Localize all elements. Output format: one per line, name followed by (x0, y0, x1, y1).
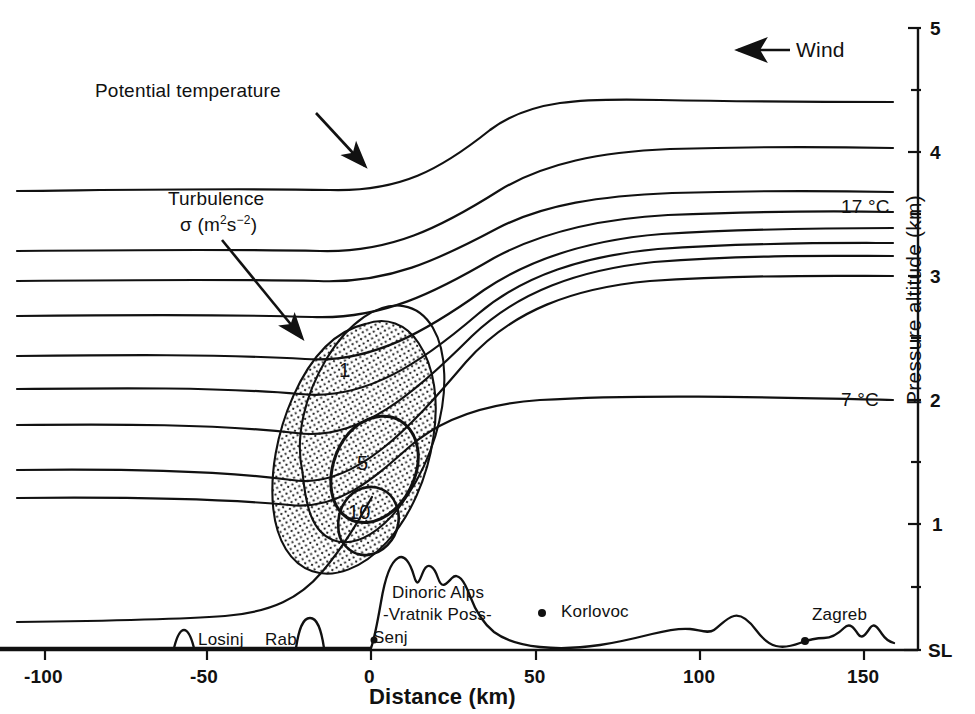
turbulence-arrow (222, 240, 302, 338)
temperature-label-lower: 7 °C (841, 389, 879, 411)
zagreb-marker (801, 637, 809, 645)
y-tick-label-2: 2 (930, 390, 941, 412)
isentrope-8 (17, 276, 893, 481)
place-label-dinaric-alps: Dinoric Alps (392, 583, 484, 603)
place-label-karlovac: Korlovoc (561, 602, 629, 622)
sigma-units-exp2: −2 (237, 213, 251, 227)
chart-figure: Potential temperature Turbulence σ (m2s−… (0, 0, 975, 714)
place-label-vratnik-pass: -Vratnik Poss- (383, 605, 492, 625)
x-tick-label-0: -100 (24, 666, 63, 688)
turbulence-annotation: Turbulence (168, 188, 264, 210)
isentrope-6 (17, 243, 893, 395)
turbulence-units-annotation: σ (m2s−2) (180, 213, 257, 236)
isentrope-9-7C (17, 397, 893, 506)
isentrope-lines (17, 99, 893, 622)
potential-temperature-annotation: Potential temperature (95, 80, 281, 102)
place-label-rab: Rab (265, 630, 297, 650)
sigma-units-prefix: σ (m (180, 214, 220, 235)
isentrope-1 (17, 99, 893, 191)
place-label-losinj: Losinj (198, 630, 244, 650)
x-tick-label-3: 50 (524, 666, 546, 688)
axis-lines (0, 28, 918, 650)
potential-temperature-arrow (316, 113, 365, 166)
wind-label: Wind (796, 38, 845, 62)
y-axis-title: Pressure altitude (km) (902, 195, 926, 405)
temperature-label-upper: 17 °C (841, 196, 890, 218)
y-tick-label-4: 4 (930, 142, 941, 164)
x-tick-label-4: 100 (683, 666, 715, 688)
sigma-units-mid: s (227, 214, 237, 235)
x-tick-label-5: 150 (847, 666, 879, 688)
isentrope-5 (17, 228, 893, 359)
turbulence-contour-label-1: 1 (339, 359, 350, 382)
sigma-units-suffix: ) (251, 214, 258, 235)
sigma-units-exp1: 2 (220, 213, 227, 227)
isentrope-7 (17, 256, 893, 434)
y-tick-label-3: 3 (930, 266, 941, 288)
turbulence-shaded-region (250, 303, 459, 593)
place-label-senj: Senj (373, 628, 408, 648)
y-tick-label-sl: SL (928, 640, 953, 662)
turbulence-contour-label-5: 5 (357, 452, 368, 475)
y-tick-label-5: 5 (930, 18, 941, 40)
turbulence-contour-label-10: 10 (348, 501, 371, 524)
x-axis-title: Distance (km) (369, 684, 516, 710)
x-tick-label-1: -50 (190, 666, 218, 688)
isentrope-3 (17, 191, 893, 281)
y-tick-label-1: 1 (932, 514, 943, 536)
karlovac-marker (538, 609, 546, 617)
place-label-zagreb: Zagreb (812, 605, 867, 625)
isentrope-2 (17, 147, 893, 251)
isentrope-4 (17, 211, 893, 317)
